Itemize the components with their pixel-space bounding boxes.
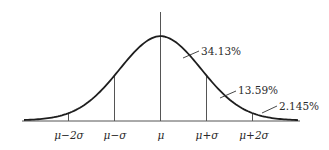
annotation-34-percent: 34.13% [201, 45, 241, 57]
tick-label-mu-plus-2sigma: μ+2σ [239, 129, 269, 141]
tick-label-mu-minus-2sigma: μ−2σ [54, 129, 84, 141]
tick-label-mu-plus-sigma: μ+σ [196, 129, 219, 141]
tick-label-mu-minus-sigma: μ−σ [104, 129, 127, 141]
normal-distribution-chart [0, 0, 329, 150]
tick-label-mu: μ [158, 129, 165, 141]
annotation-13-percent: 13.59% [238, 84, 278, 96]
annotation-2-percent: 2.145% [279, 100, 319, 112]
leader-2 [262, 106, 277, 113]
